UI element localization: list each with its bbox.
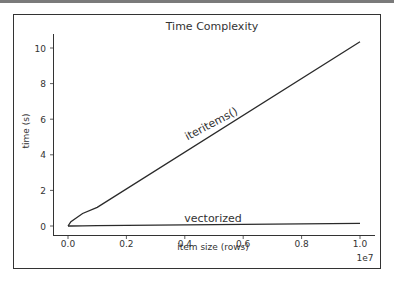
y-axis-label: time (s) [21,114,31,149]
y-ticks: 0246810 [35,44,54,232]
y-tick-label: 0 [40,222,46,232]
x-tick-label: 1.0 [353,239,368,249]
y-tick-label: 4 [40,150,46,160]
series-line-iteritems [68,42,360,226]
x-tick-label: 0.8 [294,239,309,249]
y-tick-label: 6 [40,115,46,125]
plot-lines [68,42,360,226]
vectorized-label: vectorized [184,212,241,225]
y-tick-label: 10 [35,44,47,54]
chart-svg: Time Complexity 0246810 0.00.20.40.60.81… [0,0,394,282]
x-offset-label: 1e7 [357,253,374,263]
y-tick-label: 2 [40,186,46,196]
x-axis-label: item size (rows) [177,242,249,252]
iteritems-label: iteritems() [183,105,240,144]
y-tick-label: 8 [40,79,46,89]
chart-title: Time Complexity [165,20,259,33]
x-tick-label: 0.0 [61,239,76,249]
x-tick-label: 0.2 [119,239,133,249]
